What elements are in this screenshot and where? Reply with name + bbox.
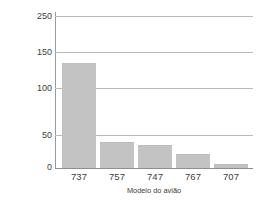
x-tick-label-737: 737 (59, 171, 99, 182)
bars-layer (55, 12, 253, 169)
y-tick-label-250: 250 (26, 12, 52, 21)
x-axis-tick-labels: 737 757 747 767 707 (55, 171, 253, 185)
x-tick-label-707: 707 (211, 171, 251, 182)
x-tick-label-767: 767 (173, 171, 213, 182)
y-axis-tick-labels: 250 150 100 50 0 (24, 0, 52, 209)
x-tick-label-747: 747 (135, 171, 175, 182)
x-axis-title: Modelo do avião (55, 186, 253, 195)
bar-737[interactable] (62, 63, 96, 168)
y-tick-label-100: 100 (26, 84, 52, 93)
bar-chart-figure: Número de aviões fabricados em 1985 250 … (0, 0, 265, 209)
y-tick-label-0: 0 (26, 163, 52, 172)
bar-707[interactable] (214, 164, 248, 168)
bar-757[interactable] (100, 142, 134, 168)
y-tick-label-50: 50 (26, 131, 52, 140)
bar-747[interactable] (138, 145, 172, 168)
x-tick-label-757: 757 (97, 171, 137, 182)
y-tick-label-150: 150 (26, 48, 52, 57)
bar-767[interactable] (176, 154, 210, 168)
plot-area (55, 12, 253, 169)
